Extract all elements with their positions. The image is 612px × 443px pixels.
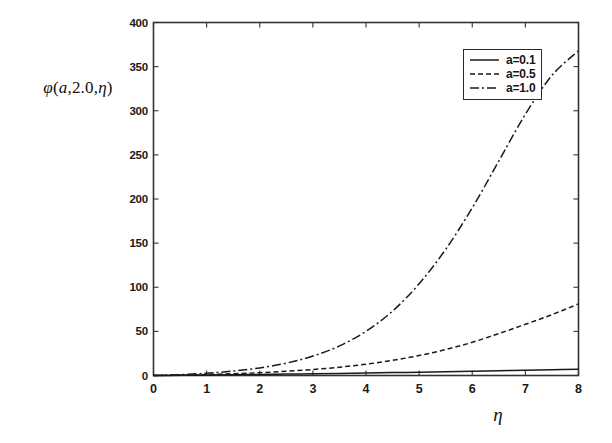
legend-item: a=0.5: [469, 67, 535, 81]
legend-label: a=0.1: [506, 53, 535, 67]
legend-item: a=1.0: [469, 81, 535, 95]
x-axis-tick-label: 6: [457, 382, 487, 396]
y-axis-tick-label: 300: [108, 105, 148, 117]
legend-label: a=1.0: [506, 81, 535, 95]
x-axis-tick-label: 4: [351, 382, 381, 396]
y-axis-tick-labels: 050100150200250300350400: [102, 0, 148, 443]
x-axis-tick-label: 0: [139, 382, 169, 396]
x-axis-tick-label: 5: [404, 382, 434, 396]
chart-figure: φ(a,2.0,η) η 050100150200250300350400 01…: [0, 0, 612, 443]
x-axis-tick-label: 1: [192, 382, 222, 396]
x-axis-label: η: [478, 404, 518, 426]
legend-line-sample: [469, 83, 500, 93]
x-axis-tick-label: 3: [298, 382, 328, 396]
x-axis-tick-label: 7: [510, 382, 540, 396]
y-axis-tick-label: 400: [108, 17, 148, 29]
x-axis-tick-label: 2: [245, 382, 275, 396]
y-axis-tick-label: 150: [108, 237, 148, 249]
y-axis-tick-label: 350: [108, 61, 148, 73]
legend-line-sample: [469, 69, 500, 79]
legend-line-sample: [469, 55, 500, 65]
y-axis-label-phi: φ: [43, 78, 53, 97]
x-axis-tick-label: 8: [564, 382, 594, 396]
series-line-a-0-5: [154, 304, 579, 375]
y-axis-tick-label: 200: [108, 193, 148, 205]
legend-label: a=0.5: [506, 67, 535, 81]
x-axis-tick-labels: 012345678: [0, 382, 612, 406]
y-axis-label-const: 2.0: [72, 78, 94, 97]
y-axis-tick-label: 100: [108, 281, 148, 293]
legend: a=0.1a=0.5a=1.0: [463, 49, 542, 100]
y-axis-tick-label: 250: [108, 149, 148, 161]
legend-item: a=0.1: [469, 53, 535, 67]
y-axis-tick-label: 50: [108, 325, 148, 337]
y-axis-tick-label: 0: [108, 370, 148, 382]
